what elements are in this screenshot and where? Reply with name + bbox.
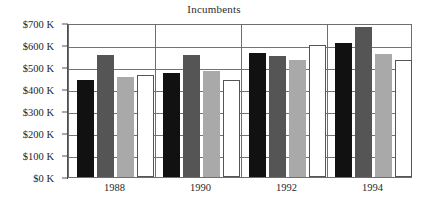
bar xyxy=(309,45,326,177)
bar xyxy=(375,54,392,177)
bar xyxy=(163,73,180,178)
bar xyxy=(183,55,200,177)
bar xyxy=(117,77,134,177)
bars-layer xyxy=(69,25,411,177)
bar xyxy=(77,80,94,177)
y-tick-label: $300 K xyxy=(23,107,54,118)
y-tick-label: $700 K xyxy=(23,19,54,30)
x-tick-label: 1992 xyxy=(276,182,297,193)
y-tick-label: $100 K xyxy=(23,151,54,162)
bar xyxy=(249,53,266,177)
plot-area xyxy=(68,24,412,178)
bar xyxy=(137,75,154,177)
chart-title: Incumbents xyxy=(0,3,428,15)
x-axis: 1988199019921994 xyxy=(68,182,412,202)
bar xyxy=(223,80,240,177)
bar xyxy=(97,55,114,177)
x-tick-label: 1994 xyxy=(362,182,383,193)
bar xyxy=(289,60,306,177)
y-tick-label: $500 K xyxy=(23,63,54,74)
bar xyxy=(203,71,220,177)
y-tick-label: $600 K xyxy=(23,41,54,52)
bar xyxy=(355,27,372,177)
y-tick-label: $400 K xyxy=(23,85,54,96)
bar xyxy=(335,43,352,177)
bar xyxy=(395,60,412,177)
chart-container: Incumbents $0 K$100 K$200 K$300 K$400 K$… xyxy=(0,0,428,210)
y-tick-label: $0 K xyxy=(33,173,54,184)
y-axis: $0 K$100 K$200 K$300 K$400 K$500 K$600 K… xyxy=(0,24,62,178)
bar xyxy=(269,56,286,177)
y-tick-label: $200 K xyxy=(23,129,54,140)
x-tick-label: 1990 xyxy=(190,182,211,193)
x-tick-label: 1988 xyxy=(104,182,125,193)
